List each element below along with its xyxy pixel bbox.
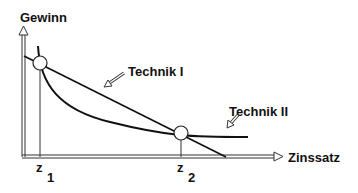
technik-2-label: Technik II — [229, 104, 288, 119]
curve-technik-2 — [38, 46, 248, 137]
technik-1-pointer-arrow-icon — [104, 73, 124, 87]
svg-text:1: 1 — [47, 170, 54, 185]
technik-1-label: Technik I — [128, 64, 183, 79]
diagram: Gewinn Zinssatz Technik I Technik II z 1… — [0, 0, 358, 193]
x-axis-arrow-icon — [274, 152, 283, 161]
svg-text:2: 2 — [188, 170, 195, 185]
svg-text:z: z — [36, 160, 43, 175]
y-axis-label: Gewinn — [20, 10, 67, 25]
curve-technik-1 — [24, 56, 226, 157]
intersection-z2 — [174, 126, 188, 140]
svg-text:z: z — [177, 160, 184, 175]
y-axis — [19, 26, 28, 157]
z2-label: z 2 — [177, 160, 195, 185]
y-axis-arrow-icon — [19, 26, 28, 35]
z1-label: z 1 — [36, 160, 54, 185]
intersection-z1 — [33, 56, 47, 70]
x-axis — [22, 152, 283, 161]
x-axis-label: Zinssatz — [288, 150, 341, 165]
